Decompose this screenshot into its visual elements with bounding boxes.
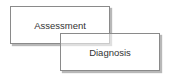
- diagnosis-box: Diagnosis: [60, 33, 160, 71]
- assessment-label: Assessment: [34, 20, 86, 31]
- diagnosis-label: Diagnosis: [89, 47, 131, 58]
